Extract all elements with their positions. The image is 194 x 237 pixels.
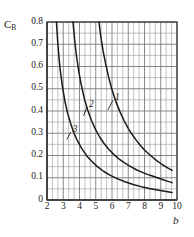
curve-label-3: 3 <box>72 124 78 134</box>
plot-area: 123 <box>0 0 194 237</box>
chart-figure: CB b 00.10.20.30.40.50.60.70.8 234567891… <box>0 0 194 237</box>
curve-label-1: 1 <box>115 92 120 102</box>
curve-label-2: 2 <box>89 99 94 109</box>
